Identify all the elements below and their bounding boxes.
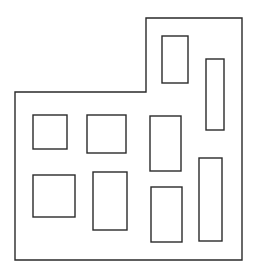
room-rect-left-upper-square bbox=[33, 115, 67, 149]
building-outline bbox=[15, 18, 242, 260]
room-rectangles bbox=[33, 36, 224, 242]
room-rect-top-upper bbox=[162, 36, 188, 83]
room-rect-center-upper bbox=[150, 116, 181, 171]
room-rect-right-tall-upper bbox=[206, 59, 224, 130]
room-rect-left-lower-square bbox=[33, 175, 75, 217]
room-rect-mid-lower bbox=[93, 172, 127, 230]
room-rect-right-tall-lower bbox=[199, 158, 222, 241]
floor-plan-diagram bbox=[0, 0, 254, 272]
room-rect-center-lower bbox=[151, 187, 182, 242]
room-rect-mid-upper bbox=[87, 115, 126, 153]
